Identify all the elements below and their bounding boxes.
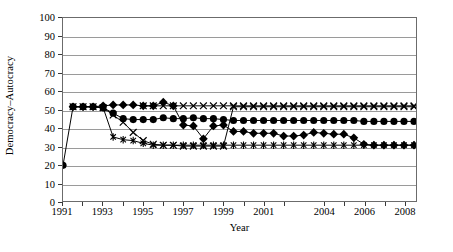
series-circle-series — [63, 103, 416, 169]
x-axis-title: Year — [62, 222, 417, 233]
y-tick-label: 90 — [45, 30, 56, 41]
x-tick-label: 1993 — [92, 206, 113, 217]
x-tick-label: 2008 — [394, 206, 415, 217]
y-tick-label: 50 — [45, 104, 56, 115]
x-tick-label: 1991 — [52, 206, 73, 217]
x-axis-tick-labels: 199119931995199719992001200420062008 — [62, 206, 417, 222]
x-tick-label: 1999 — [213, 206, 234, 217]
plot-area — [62, 17, 417, 202]
y-tick-label: 30 — [45, 141, 56, 152]
y-tick-label: 10 — [45, 178, 56, 189]
y-tick-label: 70 — [45, 67, 56, 78]
x-tick-label: 2004 — [314, 206, 335, 217]
y-tick-label: 60 — [45, 86, 56, 97]
chart-figure: Democracy–Autocracy 01020304050607080901… — [0, 0, 453, 252]
y-axis-title: Democracy–Autocracy — [0, 0, 20, 210]
x-tick-label: 2006 — [354, 206, 375, 217]
y-tick-label: 100 — [39, 12, 55, 23]
y-axis-title-text: Democracy–Autocracy — [5, 55, 16, 154]
data-series-layer — [63, 18, 416, 201]
y-tick-label: 20 — [45, 160, 56, 171]
x-tick-label: 2001 — [253, 206, 274, 217]
y-tick-label: 80 — [45, 49, 56, 60]
x-tick-label: 1997 — [173, 206, 194, 217]
x-tick-label: 1995 — [132, 206, 153, 217]
series-asterisk-series — [70, 103, 416, 149]
y-tick-label: 40 — [45, 123, 56, 134]
